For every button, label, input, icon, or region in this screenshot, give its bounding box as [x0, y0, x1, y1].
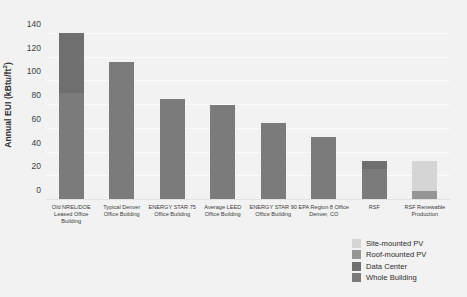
- y-axis-tick-label: 120: [27, 43, 41, 53]
- gridline: [46, 175, 450, 176]
- legend-item: Data Center: [352, 261, 426, 272]
- legend-item: Roof-mounted PV: [352, 250, 426, 261]
- gridline: [46, 104, 450, 105]
- bar-segment: [311, 137, 336, 200]
- x-axis-label: RSF Renewable Production: [400, 204, 451, 218]
- chart-figure: Annual EUI (kBtu/ft2) 020406080100120140…: [0, 0, 467, 297]
- legend-label: Site-mounted PV: [366, 239, 423, 248]
- y-axis-title-superscript: 2: [2, 65, 8, 68]
- y-axis-tick-label: 40: [32, 138, 41, 148]
- y-axis-tick-label: 20: [32, 161, 41, 171]
- legend-swatch: [352, 262, 361, 271]
- x-axis-label: EPA Region 8 Office Denver, CO: [299, 204, 350, 218]
- legend-item: Site-mounted PV: [352, 238, 426, 249]
- y-axis-tick-label: 80: [32, 90, 41, 100]
- y-axis-title: Annual EUI (kBtu/ft2): [2, 20, 16, 190]
- y-axis-tick-label: 60: [32, 114, 41, 124]
- bar-segment: [59, 93, 84, 200]
- bar: [59, 33, 84, 200]
- bar-segment: [160, 99, 185, 200]
- gridline: [46, 57, 450, 58]
- bar-segment: [59, 33, 84, 93]
- chart-legend: Site-mounted PVRoof-mounted PVData Cente…: [352, 238, 426, 283]
- legend-item: Whole Building: [352, 273, 426, 284]
- bar: [109, 62, 134, 200]
- gridline: [46, 128, 450, 129]
- bar-segment: [210, 105, 235, 200]
- bar-segment: [362, 161, 387, 169]
- bar-segment: [109, 62, 134, 200]
- legend-label: Roof-mounted PV: [366, 250, 426, 259]
- x-axis-line: [46, 199, 450, 200]
- x-axis-label: ENERGY STAR 75 Office Building: [147, 204, 198, 218]
- x-axis-label: ENERGY STAR 90 Office Building: [248, 204, 299, 218]
- bar: [311, 137, 336, 200]
- legend-swatch: [352, 250, 361, 259]
- x-axis-label: Old NREL/DOE Leased Office Building: [46, 204, 97, 226]
- x-axis-label: RSF: [349, 204, 400, 211]
- y-axis-title-main: Annual EUI (kBtu/ft: [3, 69, 13, 148]
- legend-swatch: [352, 239, 361, 248]
- gridline: [46, 80, 450, 81]
- y-axis-tick-label: 0: [36, 185, 41, 195]
- legend-label: Data Center: [366, 262, 407, 271]
- bar-segment: [412, 161, 437, 191]
- gridline: [46, 152, 450, 153]
- bar: [210, 105, 235, 200]
- plot-area: 020406080100120140: [46, 28, 450, 200]
- x-axis-label: Average LEED Office Building: [198, 204, 249, 218]
- y-axis-title-tail: ): [3, 62, 13, 65]
- x-axis-label: Typical Denver Office Building: [97, 204, 148, 218]
- bar: [160, 99, 185, 200]
- bar: [261, 123, 286, 200]
- bar: [412, 161, 437, 200]
- y-axis-tick-label: 100: [27, 66, 41, 76]
- bar-segment: [362, 169, 387, 200]
- legend-swatch: [352, 273, 361, 282]
- y-axis-tick-label: 140: [27, 19, 41, 29]
- bar: [362, 161, 387, 200]
- gridline: [46, 33, 450, 34]
- bar-segment: [261, 123, 286, 200]
- legend-label: Whole Building: [366, 273, 417, 282]
